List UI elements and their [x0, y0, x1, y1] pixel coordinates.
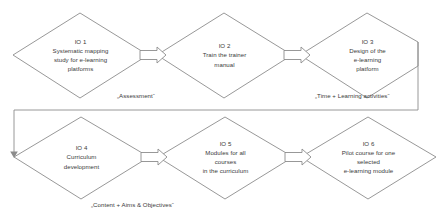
- node-io3-desc: Design of thee-learningplatform: [316, 46, 420, 73]
- node-io6-desc: Pilot course for oneselectede-learning m…: [316, 148, 421, 175]
- node-io2-desc: Train the trainermanual: [172, 50, 277, 68]
- node-io4-code: IO 4: [29, 143, 134, 152]
- node-io6-code: IO 6: [316, 139, 421, 148]
- node-io5-desc: Modules for allcoursesin the curriculum: [173, 148, 278, 175]
- annotation-time-learning: „Time + Learning activities“: [315, 92, 390, 99]
- node-io6[interactable]: IO 6 Pilot course for oneselectede-learn…: [301, 127, 436, 187]
- node-io5-code: IO 5: [173, 139, 278, 148]
- node-io4-desc: Curriculumdevelopment: [29, 152, 134, 170]
- node-io2[interactable]: IO 2 Train the trainermanual: [157, 30, 292, 80]
- annotation-content-aims: „Content + Aims & Objectives“: [91, 201, 174, 208]
- node-io2-code: IO 2: [172, 41, 277, 50]
- node-io1[interactable]: IO 1 Systematic mappingstudy for e-learn…: [13, 25, 148, 85]
- node-io3[interactable]: IO 3 Design of thee-learningplatform: [301, 25, 434, 85]
- node-io1-desc: Systematic mappingstudy for e-learningpl…: [28, 46, 133, 73]
- annotation-assessment: „Assessment“: [117, 92, 155, 99]
- node-io3-code: IO 3: [316, 37, 420, 46]
- node-io4[interactable]: IO 4 Curriculumdevelopment: [14, 132, 149, 182]
- diagram-canvas: IO 1 Systematic mappingstudy for e-learn…: [0, 0, 440, 221]
- node-io5[interactable]: IO 5 Modules for allcoursesin the curric…: [158, 127, 293, 187]
- node-io1-code: IO 1: [28, 37, 133, 46]
